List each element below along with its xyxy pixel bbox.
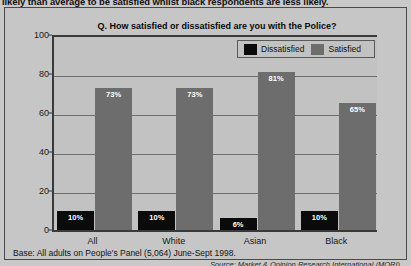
y-axis-tick-label: 20 (25, 186, 49, 196)
plot-area: 10%73%10%73%6%81%10%65% (52, 35, 377, 232)
chart-legend: Dissatisfied Satisfied (237, 40, 375, 58)
legend-swatch-satisfied (311, 44, 324, 55)
y-axis-tick-label: 80 (25, 69, 49, 79)
bar-asian-dissatisfied: 6% (220, 218, 257, 230)
bar-value-label: 81% (258, 74, 295, 83)
source-note: Source: Market & Opinion Research Intern… (210, 260, 400, 266)
chart-page: likely than average to be satisfied whil… (0, 0, 411, 266)
bar-asian-satisfied: 81% (258, 72, 295, 230)
gridline (54, 76, 377, 77)
y-axis-tick-mark (48, 152, 52, 153)
x-axis-category-white: White (134, 236, 214, 246)
bar-all-satisfied: 73% (95, 88, 132, 230)
x-axis-category-asian: Asian (215, 236, 295, 246)
legend-swatch-dissatisfied (244, 44, 257, 55)
bar-black-dissatisfied: 10% (301, 211, 338, 231)
x-axis-category-all: All (53, 236, 133, 246)
y-axis-tick-label: 100 (25, 30, 49, 40)
y-axis-tick-label: 40 (25, 147, 49, 157)
chart-title: Q. How satisfied or dissatisfied are you… (52, 21, 382, 31)
bar-black-satisfied: 65% (339, 103, 376, 230)
bar-value-label: 10% (138, 213, 175, 222)
bar-value-label: 65% (339, 105, 376, 114)
bar-value-label: 6% (220, 220, 257, 229)
chart-card: Q. How satisfied or dissatisfied are you… (4, 7, 407, 260)
bar-white-satisfied: 73% (176, 88, 213, 230)
y-axis-tick-label: 0 (25, 225, 49, 235)
legend-entry-dissatisfied: Dissatisfied (244, 44, 304, 55)
y-axis-tick-label: 60 (25, 108, 49, 118)
bar-value-label: 10% (57, 213, 94, 222)
legend-label-dissatisfied: Dissatisfied (261, 44, 304, 54)
y-axis-tick-mark (48, 74, 52, 75)
bar-all-dissatisfied: 10% (57, 211, 94, 231)
bar-white-dissatisfied: 10% (138, 211, 175, 231)
y-axis: 020406080100 (23, 35, 49, 232)
bar-value-label: 73% (95, 90, 132, 99)
y-axis-tick-mark (48, 35, 52, 36)
x-axis-category-black: Black (296, 236, 376, 246)
y-axis-tick-mark (48, 230, 52, 231)
legend-label-satisfied: Satisfied (328, 44, 361, 54)
bar-value-label: 10% (301, 213, 338, 222)
legend-entry-satisfied: Satisfied (311, 44, 361, 55)
y-axis-tick-mark (48, 191, 52, 192)
base-note: Base: All adults on People's Panel (5,06… (13, 248, 236, 258)
bar-value-label: 73% (176, 90, 213, 99)
y-axis-tick-mark (48, 113, 52, 114)
